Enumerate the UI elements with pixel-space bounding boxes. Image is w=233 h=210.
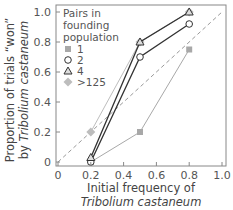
square-marker-icon	[186, 47, 192, 53]
x-axis-label: Initial frequency ofTribolium castaneum	[81, 181, 202, 209]
y-tick-label: 0.6	[34, 66, 52, 79]
series-1	[88, 47, 192, 166]
legend-title: founding	[63, 19, 109, 31]
y-tick-label: 0	[44, 156, 51, 169]
y-tick-label: 0.4	[34, 96, 52, 109]
y-axis-label: Proportion of trials “won”by Tribolium c…	[3, 18, 31, 163]
y-axis-label-line1: Proportion of trials “won”	[3, 18, 17, 163]
legend: Pairs infoundingpopulation124>125	[63, 7, 119, 88]
line-chart: 00.20.40.60.81.0 00.20.40.60.81.0 Pairs …	[0, 0, 233, 210]
square-marker-icon	[137, 129, 143, 135]
x-axis-ticks: 00.20.40.60.81.0	[55, 162, 231, 182]
legend-title: population	[63, 31, 119, 43]
circle-marker-icon	[137, 54, 144, 61]
diamond-marker-icon	[86, 128, 95, 137]
y-axis-label-line2: by Tribolium castaneum	[17, 21, 31, 159]
legend-square-icon	[65, 46, 71, 52]
x-axis-label-line2: Tribolium castaneum	[81, 195, 202, 209]
legend-triangle-icon	[64, 67, 72, 74]
y-tick-label: 0.8	[34, 36, 52, 49]
legend-circle-icon	[65, 57, 72, 64]
x-tick-label: 0	[55, 169, 62, 182]
legend-title: Pairs in	[63, 7, 101, 19]
circle-marker-icon	[186, 21, 193, 28]
legend-diamond-icon	[64, 78, 73, 87]
legend-entry-label: >125	[77, 76, 106, 88]
x-axis-label-line1: Initial frequency of	[87, 181, 196, 195]
x-tick-label: 1.0	[213, 169, 231, 182]
y-tick-label: 1.0	[34, 6, 52, 19]
y-tick-label: 0.2	[34, 126, 52, 139]
